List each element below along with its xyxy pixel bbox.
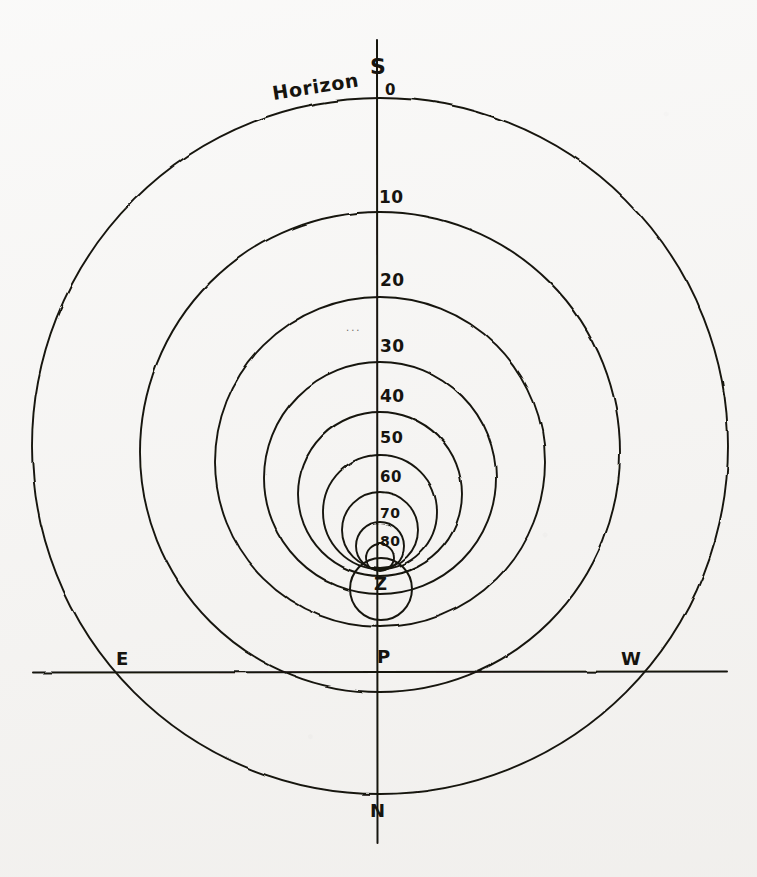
east-west-line [33,672,727,673]
east-point-label: E [116,650,128,668]
altitude-tick-70: 70 [380,506,400,520]
almucantar-diagram-canvas [0,0,757,877]
north-point-label: N [370,802,385,820]
west-point-label: W [621,650,641,668]
altitude-tick-20: 20 [380,272,405,289]
south-point-label: S [370,56,386,78]
zenith-label: Z [374,575,387,593]
pole-label: P [377,648,390,666]
pencil-smudge: ... [346,322,362,333]
altitude-tick-30: 30 [380,338,405,355]
altitude-circle-60 [342,492,418,568]
altitude-tick-50: 50 [380,430,403,446]
altitude-tick-40: 40 [380,388,405,405]
altitude-tick-0: 0 [385,83,396,98]
altitude-tick-80: 80 [380,534,400,548]
altitude-tick-60: 60 [380,470,402,485]
meridian-line [377,40,378,843]
diagram-page: Horizon S 0 10 20 30 40 50 60 70 80 Z P … [0,0,757,877]
altitude-tick-10: 10 [379,189,404,206]
